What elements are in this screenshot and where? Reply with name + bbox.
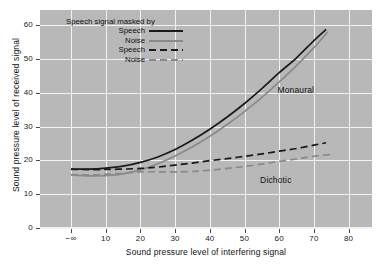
xtick-mark-60 [279, 229, 280, 233]
ytick-mark-50 [36, 59, 40, 60]
hgrid-0 [40, 228, 372, 229]
legend-label-0: Speech [103, 26, 145, 35]
xtick-mark-−∞ [71, 229, 72, 233]
xtick-mark-20 [140, 229, 141, 233]
y-axis-title: Sound pressure level of received signal [11, 15, 21, 215]
legend-entry-3: Noise [58, 55, 183, 65]
axis-baseline [40, 227, 372, 228]
legend-label-2: Speech [103, 45, 145, 54]
xtick-mark-50 [245, 229, 246, 233]
ytick-mark-40 [36, 93, 40, 94]
legend-entry-2: Speech [58, 45, 183, 55]
annotation-monaural: Monaural [278, 85, 315, 95]
legend-entries: SpeechNoiseSpeechNoise [58, 26, 183, 64]
legend-label-1: Noise [103, 36, 145, 45]
xtick-mark-70 [314, 229, 315, 233]
legend-label-3: Noise [103, 55, 145, 64]
legend: Speech signal masked by SpeechNoiseSpeec… [58, 17, 183, 64]
legend-entry-1: Noise [58, 36, 183, 46]
legend-swatch-3 [149, 55, 183, 64]
xtick-mark-40 [210, 229, 211, 233]
xtick-label-80: 80 [329, 234, 369, 243]
legend-swatch-0 [149, 26, 183, 35]
ytick-mark-60 [36, 25, 40, 26]
curve-dichotic-noise [71, 154, 333, 175]
xtick-mark-10 [106, 229, 107, 233]
annotation-dichotic: Dichotic [260, 175, 291, 185]
ytick-mark-30 [36, 127, 40, 128]
ytick-mark-20 [36, 160, 40, 161]
x-axis-title: Sound pressure level of interfering sign… [40, 247, 372, 257]
xtick-mark-30 [175, 229, 176, 233]
ytick-label-0: 0 [0, 223, 33, 232]
legend-title: Speech signal masked by [58, 17, 183, 26]
legend-swatch-1 [149, 36, 183, 45]
legend-entry-0: Speech [58, 26, 183, 36]
ytick-mark-0 [36, 228, 40, 229]
ytick-mark-10 [36, 194, 40, 195]
legend-swatch-2 [149, 45, 183, 54]
xtick-mark-80 [349, 229, 350, 233]
figure: MonauralDichotic −∞1020304050607080 0102… [0, 0, 391, 268]
curve-dichotic-speech [71, 143, 326, 170]
